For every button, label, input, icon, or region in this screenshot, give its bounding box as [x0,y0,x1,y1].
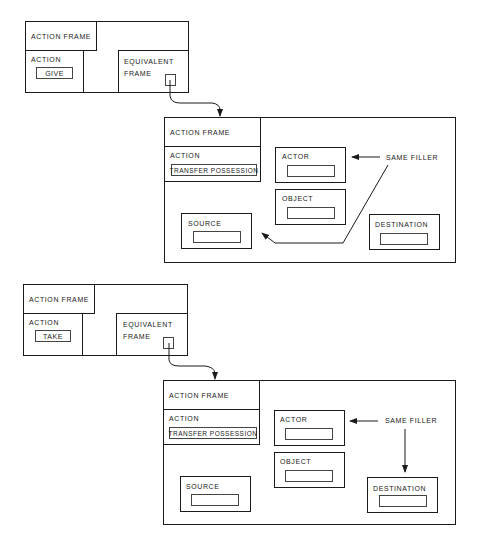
actor-filler-slot [285,428,333,440]
source-filler-slot [191,494,239,506]
action-label: ACTION [169,415,199,422]
source-label: SOURCE [186,483,220,490]
action-label: ACTION [31,56,61,63]
equivalent-label-line2: FRAME [123,333,151,340]
action-value-slot: TAKE [35,330,71,342]
big-frame-header: ACTION FRAME [170,129,230,136]
equivalent-label-line1: EQUIVALENT [124,58,174,65]
destination-label: DESTINATION [375,221,428,228]
action-value-slot: TRANSFER POSSESSION [169,427,257,439]
source-label: SOURCE [188,220,222,227]
equivalent-frame-pointer-slot [163,337,174,349]
action-label: ACTION [29,319,59,326]
object-label: OBJECT [282,195,313,202]
destination-filler-slot [380,233,428,245]
equivalent-frame-pointer-slot [165,74,176,86]
action-value-slot: TRANSFER POSSESSION [171,164,257,176]
big-frame-header: ACTION FRAME [169,392,229,399]
object-filler-slot [285,470,333,482]
destination-label: DESTINATION [373,485,426,492]
actor-filler-slot [287,165,335,177]
actor-label: ACTOR [280,416,307,423]
equivalent-label-line2: FRAME [124,70,152,77]
source-filler-slot [193,231,241,243]
equivalent-label-line1: EQUIVALENT [123,321,173,328]
object-filler-slot [287,207,335,219]
actor-label: ACTOR [282,153,309,160]
object-label: OBJECT [280,458,311,465]
small-frame-header: ACTION FRAME [31,33,91,40]
action-label: ACTION [170,152,200,159]
destination-filler-slot [379,495,427,507]
same-filler-annotation: SAME FILLER [385,417,437,424]
small-frame-header: ACTION FRAME [29,296,89,303]
same-filler-annotation: SAME FILLER [386,154,438,161]
action-value-slot: GIVE [36,67,73,79]
